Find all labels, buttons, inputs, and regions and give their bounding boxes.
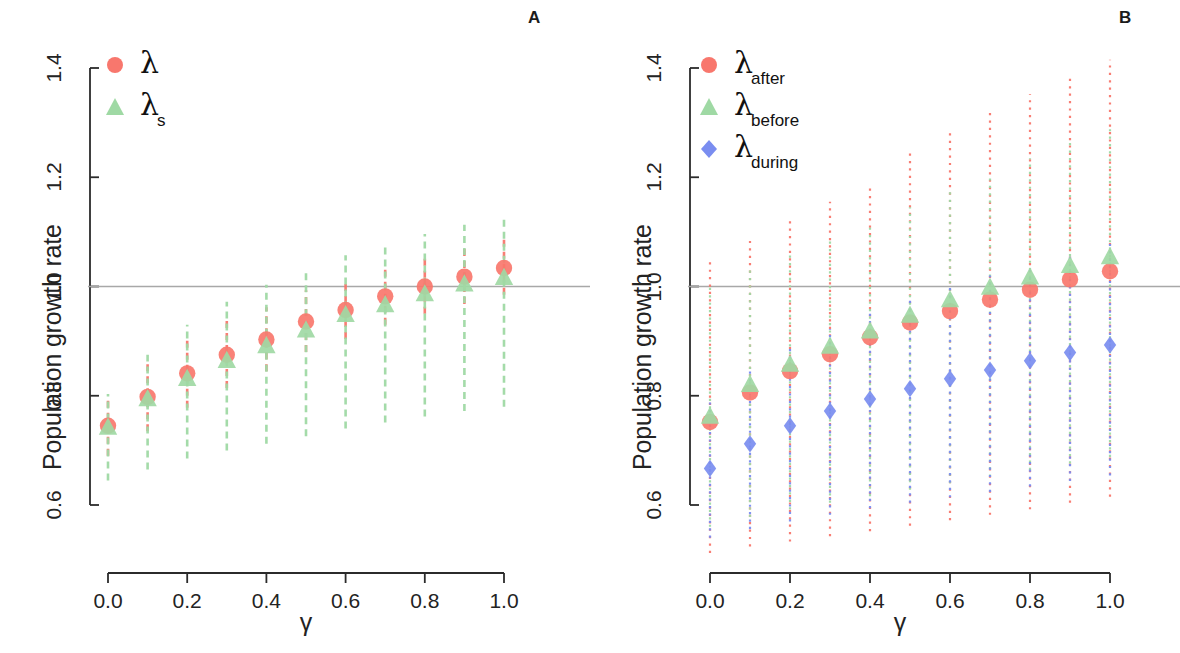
y-tick-label: 0.8 (42, 369, 66, 423)
panel-a-tick-labels: 0.60.81.01.21.40.00.20.40.60.81.0 (0, 0, 590, 653)
panel-a: A Population growth rate γ 0.60.81.01.21… (0, 0, 590, 653)
figure-canvas: A Population growth rate γ 0.60.81.01.21… (0, 0, 1180, 653)
panel-b-tick-labels: 0.60.81.01.21.40.00.20.40.60.81.0 (590, 0, 1180, 653)
x-tick-label: 0.8 (395, 589, 455, 613)
legend-label: λ (140, 45, 159, 80)
x-tick-label: 1.0 (474, 589, 534, 613)
y-tick-label: 0.8 (642, 369, 666, 423)
x-tick-label: 0.4 (236, 589, 296, 613)
legend-circle-icon (698, 54, 720, 76)
y-tick-label: 1.0 (642, 260, 666, 314)
legend-label: λbefore (734, 87, 801, 127)
y-tick-label: 1.2 (42, 150, 66, 204)
legend-label: λs (140, 87, 168, 127)
y-tick-label: 1.4 (642, 41, 666, 95)
x-tick-label: 1.0 (1080, 589, 1140, 613)
legend-triangle-icon (104, 96, 126, 118)
x-tick-label: 0.6 (316, 589, 376, 613)
x-tick-label: 0.4 (840, 589, 900, 613)
y-tick-label: 1.4 (42, 41, 66, 95)
legend-label: λafter (734, 45, 787, 85)
x-tick-label: 0.2 (157, 589, 217, 613)
legend-triangle-icon (698, 96, 720, 118)
y-tick-label: 1.2 (642, 150, 666, 204)
x-tick-label: 0.2 (760, 589, 820, 613)
legend-label: λduring (734, 129, 800, 169)
panel-b: B Population growth rate γ 0.60.81.01.21… (590, 0, 1180, 653)
y-tick-label: 0.6 (642, 478, 666, 532)
legend-diamond-icon (698, 138, 720, 160)
x-tick-label: 0.0 (78, 589, 138, 613)
x-tick-label: 0.6 (920, 589, 980, 613)
y-tick-label: 1.0 (42, 260, 66, 314)
x-tick-label: 0.8 (1000, 589, 1060, 613)
x-tick-label: 0.0 (680, 589, 740, 613)
y-tick-label: 0.6 (42, 478, 66, 532)
legend-circle-icon (104, 54, 126, 76)
